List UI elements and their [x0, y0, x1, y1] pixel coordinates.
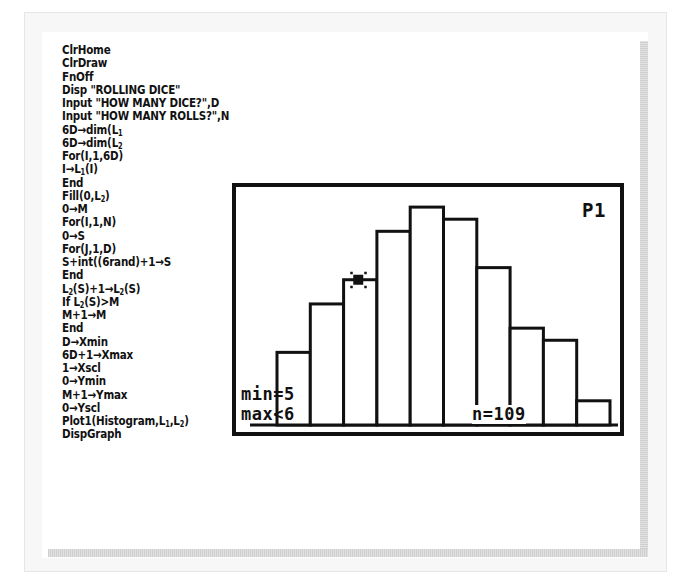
calculator-graph-screen: P1 min=5 max<6 n=109 — [232, 183, 624, 436]
histogram-bar — [344, 280, 377, 425]
program-line: Plot1(Histogram,L1,L2) — [62, 414, 229, 427]
histogram-bar — [377, 231, 410, 425]
program-line: Input "HOW MANY ROLLS?",N — [62, 109, 229, 122]
program-line: 0→Yscl — [62, 401, 229, 414]
program-line: 6D+1→Xmax — [62, 348, 229, 361]
program-line: 0→M — [62, 202, 229, 215]
panel-shadow-right — [640, 41, 648, 557]
program-line: 6D→dim(L2 — [62, 136, 229, 149]
program-line: M+1→Ymax — [62, 388, 229, 401]
program-line: Input "HOW MANY DICE?",D — [62, 96, 229, 109]
program-line: D→Xmin — [62, 335, 229, 348]
program-line: For(I,1,6D) — [62, 149, 229, 162]
n-label: n=109 — [472, 405, 526, 424]
program-line: DispGraph — [62, 427, 229, 440]
program-line: 0→S — [62, 229, 229, 242]
program-line: For(I,1,N) — [62, 215, 229, 228]
histogram-bar — [577, 401, 610, 425]
program-line: FnOff — [62, 70, 229, 83]
panel-shadow-bottom — [48, 549, 648, 557]
plot-label: P1 — [582, 201, 606, 220]
program-line: Fill(0,L2) — [62, 189, 229, 202]
program-line: 6D→dim(L1 — [62, 123, 229, 136]
histogram-bar — [543, 340, 576, 425]
program-listing: ClrHomeClrDrawFnOffDisp "ROLLING DICE"In… — [62, 43, 229, 441]
program-line: 0→Ymin — [62, 374, 229, 387]
program-line: ClrDraw — [62, 56, 229, 69]
program-line: End — [62, 268, 229, 281]
program-line: S+int((6rand)+1→S — [62, 255, 229, 268]
program-line: 1→Xscl — [62, 361, 229, 374]
program-line: For(J,1,D) — [62, 242, 229, 255]
program-line: End — [62, 321, 229, 334]
trace-min-label: min=5 — [241, 385, 295, 404]
histogram-bar — [310, 304, 343, 425]
histogram-bar — [410, 207, 443, 425]
program-line: End — [62, 176, 229, 189]
trace-max-label: max<6 — [241, 405, 295, 424]
program-line: M+1→M — [62, 308, 229, 321]
program-line: I→L1(I) — [62, 162, 229, 175]
histogram-bar — [444, 219, 477, 425]
program-line: If L2(S)>M — [62, 295, 229, 308]
program-line: ClrHome — [62, 43, 229, 56]
program-line: L2(S)+1→L2(S) — [62, 282, 229, 295]
program-line: Disp "ROLLING DICE" — [62, 83, 229, 96]
histogram-bar — [477, 268, 510, 425]
